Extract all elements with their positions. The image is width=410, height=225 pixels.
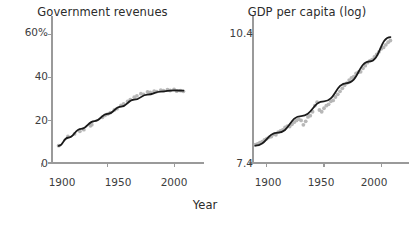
ytick-label-left-0: 60% xyxy=(8,26,48,38)
panel-government-revenues: Government revenues 60% 40 20 0 1900 195… xyxy=(0,0,205,200)
ytick-label-right-1: 7.4 xyxy=(205,157,253,169)
axis-label-year: Year xyxy=(0,198,410,212)
xtick-label-right-0: 1900 xyxy=(244,176,292,188)
xtick-label-right-1: 1950 xyxy=(297,176,345,188)
ytick-label-left-2: 20 xyxy=(8,114,48,126)
panel-gdp-per-capita: GDP per capita (log) 10.4 7.4 1900 1950 … xyxy=(205,0,410,200)
ytick-label-left-1: 40 xyxy=(8,70,48,82)
ytick-label-left-3: 0 xyxy=(8,157,48,169)
xtick-label-left-2: 2000 xyxy=(150,176,198,188)
xtick-label-right-2: 2000 xyxy=(350,176,398,188)
xtick-label-left-0: 1900 xyxy=(38,176,86,188)
figure-container: Government revenues 60% 40 20 0 1900 195… xyxy=(0,0,410,225)
ytick-label-right-0: 10.4 xyxy=(205,27,253,39)
clipped-caption-strip xyxy=(0,219,410,225)
xtick-label-left-1: 1950 xyxy=(94,176,142,188)
